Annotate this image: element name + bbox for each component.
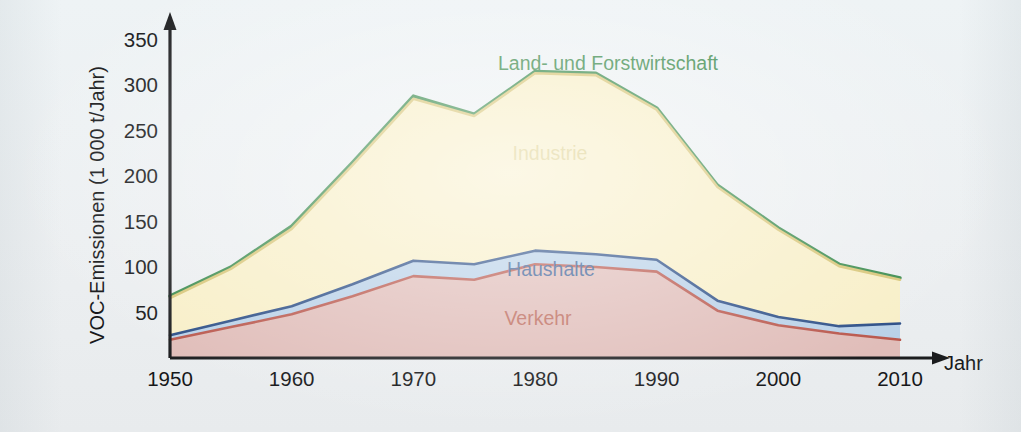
x-tick-label-2010: 2010 <box>877 367 923 390</box>
series-label-industrie: Industrie <box>513 142 588 164</box>
y-tick-label-250: 250 <box>124 119 158 142</box>
y-tick-label-200: 200 <box>124 164 158 187</box>
series-label-haushalte: Haushalte <box>507 258 595 280</box>
x-tick-label-1970: 1970 <box>391 367 437 390</box>
y-tick-label-150: 150 <box>124 210 158 233</box>
y-tick-label-300: 300 <box>124 73 158 96</box>
chart-figure: 1950196019701980199020002010501001502002… <box>0 0 1021 432</box>
y-axis-title: VOC-Emissionen (1 000 t/Jahr) <box>86 66 108 344</box>
x-tick-label-1980: 1980 <box>512 367 558 390</box>
stacked-area-chart: 1950196019701980199020002010501001502002… <box>0 0 1021 432</box>
y-tick-label-100: 100 <box>124 255 158 278</box>
y-axis-arrow <box>164 12 177 30</box>
y-tick-label-50: 50 <box>135 301 158 324</box>
series-label-land-und-forstwirtschaft: Land- und Forstwirtschaft <box>498 52 719 74</box>
x-tick-label-1950: 1950 <box>147 367 193 390</box>
series-label-verkehr: Verkehr <box>504 307 572 329</box>
x-axis-title: Jahr <box>944 352 983 374</box>
x-tick-label-2000: 2000 <box>756 367 802 390</box>
x-tick-label-1960: 1960 <box>269 367 315 390</box>
y-tick-label-350: 350 <box>124 28 158 51</box>
x-tick-label-1990: 1990 <box>634 367 680 390</box>
